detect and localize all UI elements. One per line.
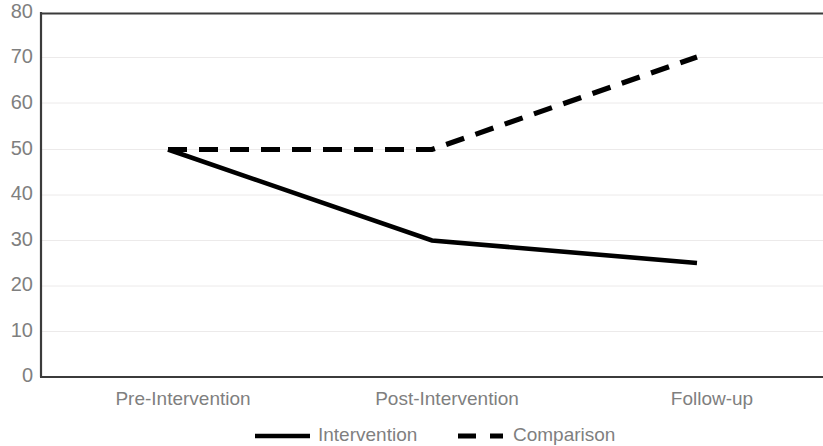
x-tick-pre-intervention: Pre-Intervention (115, 388, 250, 409)
y-tick-40: 40 (11, 182, 33, 204)
x-tick-follow-up: Follow-up (671, 388, 753, 409)
y-tick-30: 30 (11, 228, 33, 250)
y-tick-labels: 80 70 60 50 40 30 20 10 0 (11, 0, 33, 386)
legend-label-comparison: Comparison (513, 424, 615, 445)
chart-legend: Intervention Comparison (255, 424, 615, 445)
y-tick-10: 10 (11, 319, 33, 341)
y-tick-0: 0 (22, 364, 33, 386)
x-tick-labels: Pre-Intervention Post-Intervention Follo… (115, 388, 753, 409)
y-tick-70: 70 (11, 45, 33, 67)
chart-canvas: 80 70 60 50 40 30 20 10 0 Pre-Interventi… (0, 0, 823, 446)
y-tick-20: 20 (11, 273, 33, 295)
y-tick-50: 50 (11, 137, 33, 159)
legend-label-intervention: Intervention (318, 424, 417, 445)
line-chart: 80 70 60 50 40 30 20 10 0 Pre-Interventi… (0, 0, 823, 446)
x-tick-post-intervention: Post-Intervention (375, 388, 519, 409)
y-tick-60: 60 (11, 91, 33, 113)
legend-item-intervention[interactable]: Intervention (255, 424, 417, 445)
legend-item-comparison[interactable]: Comparison (458, 424, 615, 445)
y-tick-80: 80 (11, 0, 33, 22)
